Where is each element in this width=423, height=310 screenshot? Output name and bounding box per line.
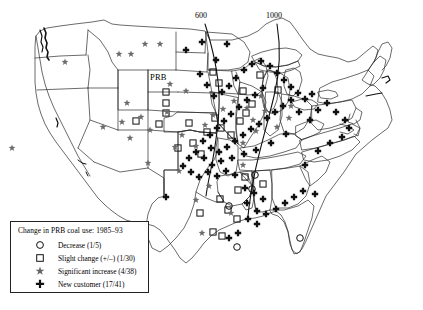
marker-plus — [252, 92, 258, 98]
marker-plus — [254, 221, 260, 227]
isoline-label-600: 600 — [195, 11, 207, 20]
puget-sound-detail — [44, 28, 49, 60]
marker-plus — [327, 140, 333, 146]
wa-or-border — [35, 55, 86, 58]
marker-plus — [339, 134, 345, 140]
marker-series-circle — [226, 172, 304, 251]
legend-item-significant-increase: Significant increase (4/38) — [18, 265, 148, 278]
marker-star — [62, 58, 69, 65]
marker-plus — [218, 158, 224, 164]
marker-plus — [240, 132, 246, 138]
marker-plus — [260, 196, 266, 202]
nm-mexico-border — [148, 168, 164, 196]
marker-plus — [245, 216, 251, 222]
marker-star — [262, 107, 269, 114]
marker-square — [197, 210, 203, 216]
tn-outline — [238, 152, 306, 171]
marker-circle — [297, 235, 304, 242]
marker-star — [240, 139, 247, 146]
id-mt-border — [88, 30, 118, 88]
marker-star — [119, 118, 126, 125]
marker-star — [202, 121, 209, 128]
marker-star — [176, 167, 183, 174]
marker-square — [243, 110, 249, 116]
marker-square — [257, 72, 263, 78]
or-id-border — [88, 55, 90, 88]
marker-plus — [199, 39, 205, 45]
marker-plus — [226, 83, 232, 89]
marker-plus — [196, 174, 202, 180]
marker-star — [250, 116, 257, 123]
marker-square — [216, 80, 222, 86]
az-mexico-border — [94, 162, 148, 172]
marker-plus — [295, 90, 301, 96]
marker-plus — [274, 70, 280, 76]
lake-ontario — [318, 90, 338, 99]
marker-star — [193, 142, 200, 149]
legend-item-new-customer: New customer (17/41) — [18, 278, 148, 291]
marker-plus — [312, 191, 318, 197]
marker-square — [249, 101, 255, 107]
legend-label-significant-increase: Significant increase (4/38) — [58, 267, 136, 276]
marker-star — [288, 102, 295, 109]
marker-plus — [233, 75, 239, 81]
us-prb-coal-map-figure: 600 1000 PRB Change in PRB coal use: 198… — [0, 0, 423, 310]
wa-coast-detail — [40, 30, 43, 52]
marker-star — [127, 134, 134, 141]
marker-star — [116, 50, 123, 57]
marker-plus — [204, 82, 210, 88]
circle-marker-icon — [34, 239, 46, 251]
marker-star — [183, 87, 190, 94]
long-island — [366, 93, 382, 96]
marker-star — [147, 126, 154, 133]
plus-marker-icon — [34, 278, 46, 290]
marker-plus — [282, 200, 288, 206]
marker-plus — [201, 155, 207, 161]
marker-circle — [234, 244, 241, 251]
marker-square — [163, 100, 169, 106]
marker-plus — [273, 206, 279, 212]
marker-plus — [221, 118, 227, 124]
marker-plus — [235, 230, 241, 236]
nd-sd-border — [176, 52, 205, 53]
marker-square — [260, 181, 266, 187]
tx-gulf-coast — [196, 192, 224, 202]
legend-label-new-customer: New customer (17/41) — [58, 280, 125, 289]
marker-plus — [241, 67, 247, 73]
marker-plus — [272, 109, 278, 115]
marker-star — [228, 209, 235, 216]
marker-plus — [216, 149, 222, 155]
marker-star — [193, 196, 200, 203]
marker-plus — [180, 163, 186, 169]
marker-plus — [211, 93, 217, 99]
ne-states — [368, 56, 386, 86]
marker-star — [124, 99, 131, 106]
marker-star — [167, 80, 174, 87]
marker-star — [240, 161, 247, 168]
marker-square — [186, 120, 192, 126]
marker-plus — [214, 125, 220, 131]
marker-plus — [242, 185, 248, 191]
marker-square — [219, 233, 225, 239]
ca-nv-border — [78, 88, 90, 148]
marker-plus — [209, 162, 215, 168]
ne-ks-border — [178, 92, 212, 93]
marker-star — [100, 123, 107, 130]
marker-star — [199, 229, 206, 236]
marker-plus — [223, 168, 229, 174]
isoline-label-1000: 1000 — [266, 11, 282, 20]
marker-plus — [324, 100, 330, 106]
star-marker-icon — [34, 265, 46, 277]
marker-plus — [248, 126, 254, 132]
marker-plus — [309, 91, 315, 97]
marker-plus — [186, 155, 192, 161]
marker-plus — [342, 117, 348, 123]
marker-plus — [226, 235, 232, 241]
marker-plus — [224, 144, 230, 150]
marker-plus — [315, 148, 321, 154]
marker-plus — [333, 109, 339, 115]
legend-item-decrease: Decrease (1/5) — [18, 239, 148, 252]
marker-star — [286, 114, 293, 121]
marker-plus — [288, 84, 294, 90]
nm-tx-border — [164, 132, 178, 196]
